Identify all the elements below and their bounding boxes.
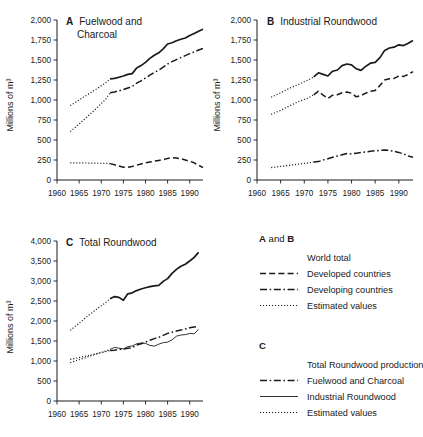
legend-group-ab-heading: A and B <box>259 233 419 244</box>
legend-box: A and B World totalDeveloped countriesDe… <box>259 233 419 421</box>
legend-line-swatch <box>259 391 299 402</box>
legend-item-label: Estimated values <box>307 408 377 418</box>
legend-item-label: World total <box>307 253 351 263</box>
legend-item-label: Developed countries <box>307 269 391 279</box>
panel-b-xtick: 1980 <box>342 189 361 198</box>
panel-a-ytick: 250 <box>37 156 51 165</box>
panel-c-ytick: 1,500 <box>31 337 52 346</box>
legend-item[interactable]: World total <box>259 250 419 265</box>
legend-item[interactable]: Fuelwood and Charcoal <box>259 373 419 388</box>
panel-a-ytick: 1,000 <box>31 96 52 105</box>
panel-c-ytick: 1,000 <box>31 357 52 366</box>
series-line <box>110 329 198 349</box>
panel-b-ytick-labels: 02505007501,0001,2501,5001,7502,000 <box>231 16 252 185</box>
panel-c-series <box>70 252 198 362</box>
legend-line-swatch <box>259 284 299 295</box>
series-line <box>70 349 110 362</box>
panel-a-ytick-labels: 02505007501,0001,2501,5001,7502,000 <box>31 16 52 185</box>
panel-a-ytick: 0 <box>46 176 51 185</box>
panel-a-title-line1: AFuelwood and <box>66 16 142 27</box>
panel-b-ytick: 1,500 <box>231 56 252 65</box>
legend-item-label: Total Roundwood production <box>307 360 423 370</box>
panel-b-title-line1: BIndustrial Roundwood <box>267 16 377 27</box>
panel-c-xtick: 1985 <box>158 410 177 419</box>
panel-a-xtick: 1970 <box>92 189 111 198</box>
legend-line-swatch <box>259 252 299 263</box>
panel-c-ytick: 4,000 <box>31 237 52 246</box>
legend-group-ab-items: World totalDeveloped countriesDeveloping… <box>259 250 419 313</box>
panel-b-y-axis-label: Millions of m³ <box>212 78 222 131</box>
panel-a-xtick-labels: 1960196519701975198019851990 <box>48 189 199 198</box>
legend-swatch-solid-thick <box>259 359 299 370</box>
legend-item[interactable]: Estimated values <box>259 298 419 313</box>
chart-legend: A and B World totalDeveloped countriesDe… <box>207 215 417 437</box>
panel-c-title-line1: CTotal Roundwood <box>66 237 157 248</box>
legend-item-label: Developing countries <box>307 285 393 295</box>
panel-c-ytick: 2,000 <box>31 317 52 326</box>
panel-b-xtick-labels: 1960196519701975198019851990 <box>248 189 408 198</box>
legend-item[interactable]: Developing countries <box>259 282 419 297</box>
panel-b-axes <box>254 20 414 184</box>
legend-item-label: Industrial Roundwood <box>307 392 396 402</box>
panel-b-ytick: 500 <box>237 136 251 145</box>
panel-c-ytick: 3,500 <box>31 257 52 266</box>
panel-c-ytick-labels: 05001,0001,5002,0002,5003,0003,5004,000 <box>31 237 52 406</box>
panel-b-xtick: 1975 <box>319 189 338 198</box>
panel-a-ytick: 2,000 <box>31 16 52 25</box>
series-line <box>110 158 203 168</box>
panel-c-xtick: 1990 <box>181 410 200 419</box>
series-line <box>110 326 198 350</box>
legend-swatch-dashdot <box>259 284 299 295</box>
panel-a-title-line2: Charcoal <box>77 29 117 40</box>
panel-a-ytick: 1,500 <box>31 56 52 65</box>
legend-line-swatch <box>259 300 299 311</box>
panel-a-xtick: 1965 <box>70 189 89 198</box>
panel-b-xtick: 1965 <box>272 189 291 198</box>
legend-item[interactable]: Industrial Roundwood <box>259 389 419 404</box>
series-line <box>70 163 110 164</box>
panel-c-ytick: 0 <box>46 397 51 406</box>
panel-a-xtick: 1985 <box>158 189 177 198</box>
panel-b-xtick: 1970 <box>295 189 314 198</box>
panel-b-xtick: 1985 <box>366 189 385 198</box>
panel-b-ytick: 1,750 <box>231 36 252 45</box>
legend-group-c-heading: C <box>259 340 419 351</box>
panel-b-ytick: 1,000 <box>231 96 252 105</box>
panel-a-xtick: 1960 <box>48 189 67 198</box>
panel-c-xtick: 1960 <box>48 410 67 419</box>
panel-a-y-axis-label: Millions of m³ <box>5 78 15 131</box>
chart-panel-c: 05001,0001,5002,0002,5003,0003,5004,000 … <box>0 215 207 437</box>
panel-c-xtick: 1975 <box>114 410 133 419</box>
panel-b-ytick: 1,250 <box>231 76 252 85</box>
legend-line-swatch <box>259 268 299 279</box>
panel-c-xtick: 1970 <box>92 410 111 419</box>
legend-line-swatch <box>259 375 299 386</box>
series-line <box>110 252 198 300</box>
panel-a-ytick: 500 <box>37 136 51 145</box>
panel-c-ytick: 500 <box>37 377 51 386</box>
panel-a-ytick: 1,250 <box>31 76 52 85</box>
legend-spacer <box>259 314 419 340</box>
legend-swatch-dashed <box>259 268 299 279</box>
panel-b-ytick: 0 <box>246 176 251 185</box>
panel-a-ytick: 1,750 <box>31 36 52 45</box>
legend-group-c-items: Total Roundwood productionFuelwood and C… <box>259 357 419 420</box>
panel-c-ytick: 2,500 <box>31 297 52 306</box>
panel-c-y-axis-label: Millions of m³ <box>5 300 15 353</box>
legend-item[interactable]: Total Roundwood production <box>259 357 419 372</box>
panel-c-svg: 05001,0001,5002,0002,5003,0003,5004,000 … <box>0 215 207 437</box>
panel-a-svg: 02505007501,0001,2501,5001,7502,000 1960… <box>0 0 207 215</box>
legend-swatch-solid-thin <box>259 391 299 402</box>
panel-a-ytick: 750 <box>37 116 51 125</box>
legend-line-swatch <box>259 359 299 370</box>
legend-item-label: Fuelwood and Charcoal <box>307 376 404 386</box>
series-line <box>70 350 110 359</box>
panel-b-xtick: 1960 <box>248 189 267 198</box>
panel-a-xtick: 1980 <box>136 189 155 198</box>
panel-c-xtick: 1965 <box>70 410 89 419</box>
legend-item[interactable]: Estimated values <box>259 405 419 420</box>
legend-swatch-solid-thick <box>259 252 299 263</box>
legend-item[interactable]: Developed countries <box>259 266 419 281</box>
panel-b-xtick: 1990 <box>390 189 409 198</box>
